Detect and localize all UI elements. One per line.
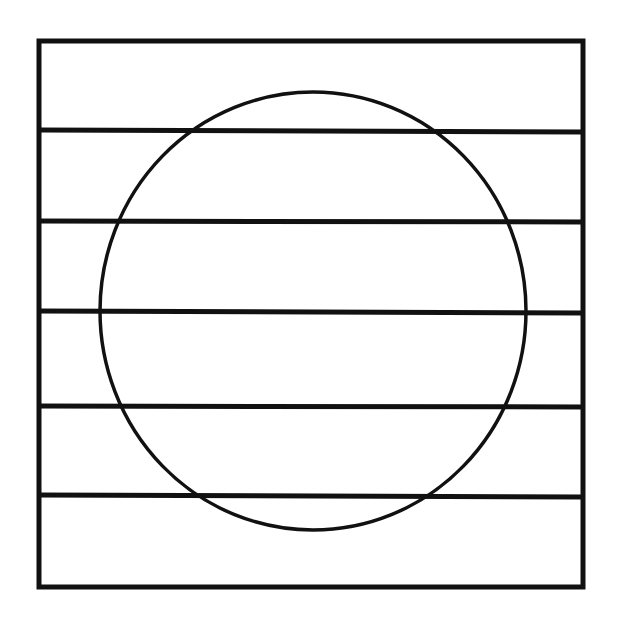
horizontal-lines xyxy=(39,130,583,497)
horizontal-line xyxy=(39,311,583,313)
diagram-canvas xyxy=(0,0,623,624)
horizontal-line xyxy=(39,495,583,497)
horizontal-line xyxy=(39,130,583,132)
